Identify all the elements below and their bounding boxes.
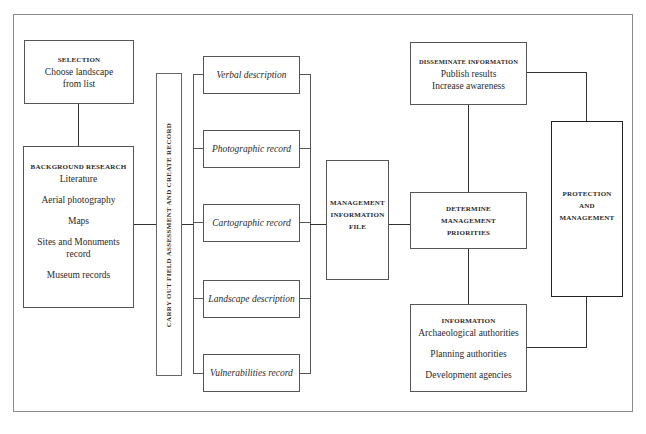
- record-label: Verbal description: [217, 70, 287, 80]
- selection-heading: SELECTION: [58, 54, 101, 66]
- determine-line: MANAGEMENT: [441, 215, 496, 227]
- selection-line: Choose landscape: [45, 66, 113, 78]
- research-item: Maps: [68, 215, 89, 227]
- connector: [586, 72, 587, 121]
- field-assessment-bar: CARRY OUT FIELD ASSESSMENT AND CREATE RE…: [156, 73, 182, 376]
- determine-line: PRIORITIES: [447, 227, 490, 239]
- record-label: Vulnerabilities record: [210, 368, 293, 378]
- information-box: INFORMATION Archaeological authorities P…: [410, 304, 527, 392]
- research-item: Aerial photography: [41, 194, 115, 206]
- research-item: Museum records: [47, 269, 111, 281]
- connector: [586, 296, 587, 348]
- mif-line: FILE: [349, 221, 366, 233]
- record-label: Landscape description: [208, 294, 294, 304]
- connector: [193, 298, 203, 299]
- disseminate-heading: DISSEMINATE INFORMATION: [419, 56, 518, 68]
- record-label: Photographic record: [212, 144, 291, 154]
- mif-line: MANAGEMENT: [330, 197, 385, 209]
- information-item: Archaeological authorities: [418, 327, 519, 339]
- connector: [193, 148, 203, 149]
- protection-line: PROTECTION: [562, 188, 611, 200]
- background-research-heading: BACKGROUND RESEARCH: [31, 161, 127, 173]
- bracket-left: [193, 74, 194, 374]
- determine-management-priorities-box: DETERMINE MANAGEMENT PRIORITIES: [410, 192, 527, 249]
- management-information-file-box: MANAGEMENT INFORMATION FILE: [326, 160, 389, 280]
- record-box: Verbal description: [203, 56, 300, 94]
- information-item: Planning authorities: [430, 348, 506, 360]
- information-heading: INFORMATION: [442, 315, 496, 327]
- information-item: Development agencies: [425, 369, 511, 381]
- protection-line: MANAGEMENT: [560, 212, 615, 224]
- selection-box: SELECTION Choose landscape from list: [24, 40, 134, 104]
- protection-line: AND: [579, 200, 595, 212]
- connector: [193, 222, 203, 223]
- disseminate-information-box: DISSEMINATE INFORMATION Publish results …: [410, 42, 527, 105]
- connector: [389, 224, 410, 225]
- disseminate-line: Publish results: [441, 68, 497, 80]
- determine-line: DETERMINE: [446, 203, 491, 215]
- connector: [134, 224, 156, 225]
- connector: [527, 347, 587, 348]
- disseminate-line: Increase awareness: [432, 80, 505, 92]
- mif-line: INFORMATION: [331, 209, 385, 221]
- record-box: Landscape description: [203, 280, 300, 318]
- connector: [468, 249, 469, 304]
- connector: [527, 72, 587, 73]
- connector: [310, 224, 326, 225]
- connector: [193, 373, 203, 374]
- background-research-box: BACKGROUND RESEARCH Literature Aerial ph…: [23, 146, 134, 308]
- connector: [468, 105, 469, 192]
- connector: [78, 104, 79, 146]
- record-box: Photographic record: [203, 130, 300, 168]
- selection-line: from list: [63, 78, 95, 90]
- research-item: Sites and Monuments record: [34, 236, 124, 260]
- record-box: Cartographic record: [203, 204, 300, 242]
- record-label: Cartographic record: [212, 218, 291, 228]
- protection-and-management-box: PROTECTION AND MANAGEMENT: [551, 121, 623, 297]
- connector: [193, 74, 203, 75]
- record-box: Vulnerabilities record: [203, 354, 300, 392]
- field-assessment-label: CARRY OUT FIELD ASSESSMENT AND CREATE RE…: [165, 122, 173, 326]
- research-item: Literature: [60, 173, 97, 185]
